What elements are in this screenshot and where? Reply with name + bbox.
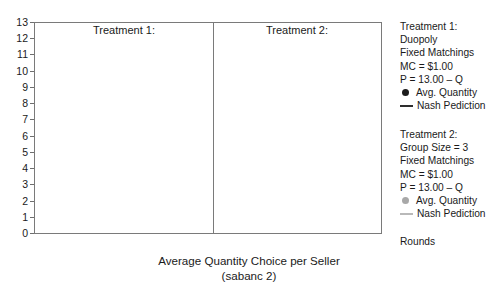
y-tick-2	[30, 201, 34, 202]
y-tick-11	[30, 54, 34, 55]
y-tick-6	[30, 136, 34, 137]
plot-frame-right	[381, 22, 382, 233]
y-tick-label-11: 11	[6, 49, 28, 59]
y-tick-label-9: 9	[6, 82, 28, 92]
legend2-line-icon	[400, 213, 413, 216]
rounds-axis-label: Rounds	[400, 236, 435, 247]
y-tick-label-2: 2	[6, 196, 28, 206]
y-tick-label-1: 1	[6, 212, 28, 222]
y-tick-label-7: 7	[6, 114, 28, 124]
legend1-line-label: Nash Pediction	[417, 99, 486, 112]
y-tick-12	[30, 38, 34, 39]
plot-frame-bottom	[34, 233, 382, 234]
x-axis-title-line2: (sabanc 2)	[0, 268, 498, 283]
legend2-line-row: Nash Pediction	[400, 207, 486, 220]
y-tick-5	[30, 152, 34, 153]
y-tick-label-10: 10	[6, 66, 28, 76]
y-tick-3	[30, 184, 34, 185]
legend1-line-icon	[400, 105, 413, 108]
plot-frame-left	[34, 22, 35, 233]
legend1-dot-icon	[402, 89, 409, 96]
x-axis-title-line1: Average Quantity Choice per Seller	[0, 253, 498, 268]
y-tick-label-8: 8	[6, 98, 28, 108]
panel-title-treatment1: Treatment 1:	[64, 24, 184, 36]
legend1-line-3: P = 13.00 – Q	[400, 73, 486, 86]
legend2-line-2: MC = $1.00	[400, 168, 486, 181]
x-axis-title: Average Quantity Choice per Seller (saba…	[0, 253, 498, 283]
y-tick-1	[30, 217, 34, 218]
y-tick-label-12: 12	[6, 33, 28, 43]
y-tick-8	[30, 103, 34, 104]
y-tick-7	[30, 119, 34, 120]
y-tick-label-13: 13	[6, 17, 28, 27]
y-tick-label-3: 3	[6, 179, 28, 189]
legend1-line-row: Nash Pediction	[400, 99, 486, 112]
y-tick-label-5: 5	[6, 147, 28, 157]
legend1-line-1: Fixed Matchings	[400, 46, 486, 59]
y-tick-0	[30, 233, 34, 234]
legend2-line-label: Nash Pediction	[417, 207, 486, 220]
legend2-line-3: P = 13.00 – Q	[400, 181, 486, 194]
legend1-line-2: MC = $1.00	[400, 60, 486, 73]
legend1-marker-row: Avg. Quantity	[400, 86, 486, 99]
y-tick-label-0: 0	[6, 228, 28, 238]
chart-figure: 131211109876543210 Treatment 1: Treatmen…	[0, 0, 498, 292]
y-tick-9	[30, 87, 34, 88]
legend-treatment2: Treatment 2: Group Size = 3 Fixed Matchi…	[400, 128, 486, 220]
panel-divider	[213, 22, 214, 233]
legend-treatment1: Treatment 1: Duopoly Fixed Matchings MC …	[400, 20, 486, 112]
y-tick-4	[30, 168, 34, 169]
legend2-marker-label: Avg. Quantity	[416, 194, 477, 207]
y-tick-13	[30, 22, 34, 23]
legend2-marker-row: Avg. Quantity	[400, 194, 486, 207]
legend2-line-1: Fixed Matchings	[400, 154, 486, 167]
legend2-title: Treatment 2:	[400, 128, 486, 141]
plot-frame-top	[34, 22, 382, 23]
legend2-line-0: Group Size = 3	[400, 141, 486, 154]
y-tick-label-4: 4	[6, 163, 28, 173]
legend2-dot-icon	[402, 197, 409, 204]
y-tick-label-6: 6	[6, 131, 28, 141]
legend1-marker-label: Avg. Quantity	[416, 86, 477, 99]
panel-title-treatment2: Treatment 2:	[237, 24, 357, 36]
y-tick-10	[30, 71, 34, 72]
legend1-line-0: Duopoly	[400, 33, 486, 46]
legend1-title: Treatment 1:	[400, 20, 486, 33]
